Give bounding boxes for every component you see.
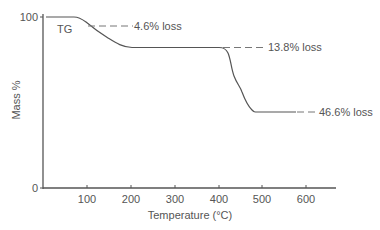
- x-axis-title: Temperature (°C): [148, 209, 232, 221]
- annotation-loss-3: 46.6% loss: [319, 106, 373, 118]
- tg-chart: 100 0 100 200 300 400 500 600 Temperatur…: [0, 0, 380, 230]
- series-label-tg: TG: [57, 23, 72, 35]
- annotation-loss-2: 13.8% loss: [268, 41, 322, 53]
- x-tick-label: 300: [166, 193, 184, 205]
- y-tick-label-0: 0: [32, 182, 38, 194]
- x-tick-label: 100: [78, 193, 96, 205]
- x-tick-label: 400: [210, 193, 228, 205]
- x-tick-label: 600: [297, 193, 315, 205]
- y-axis-title: Mass %: [10, 80, 22, 119]
- annotation-loss-1: 4.6% loss: [134, 20, 182, 32]
- y-tick-label-100: 100: [20, 11, 38, 23]
- x-tick-label: 500: [253, 193, 271, 205]
- x-tick-label: 200: [122, 193, 140, 205]
